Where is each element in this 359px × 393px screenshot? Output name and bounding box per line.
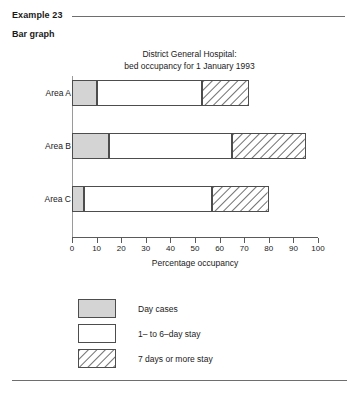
footer-divider	[12, 380, 347, 381]
bar-row-area-a: Area A	[0, 80, 359, 106]
bar-segment-area-a-long-stay	[202, 80, 249, 106]
bar-segment-area-c-long-stay	[212, 186, 269, 212]
bar-segment-area-c-short-stay	[84, 186, 212, 212]
x-tick-0	[72, 238, 73, 243]
x-tick-60	[220, 238, 221, 243]
legend-swatch-long-stay	[78, 349, 116, 368]
x-axis-title: Percentage occupancy	[72, 258, 318, 268]
hatch-fill-icon	[233, 134, 305, 158]
header-divider	[72, 16, 345, 17]
x-tick-30	[146, 238, 147, 243]
x-tick-80	[269, 238, 270, 243]
x-tick-label-30: 30	[134, 244, 158, 253]
bar-label-area-b: Area B	[1, 133, 71, 159]
legend-item-long-stay: 7 days or more stay	[78, 346, 328, 371]
bar-label-area-c: Area C	[1, 186, 71, 212]
x-tick-label-70: 70	[232, 244, 256, 253]
bar-row-area-c: Area C	[0, 186, 359, 212]
x-tick-50	[195, 238, 196, 243]
plot-area: 0 10 20 30 40 50 60 70 80 90 100 Percent…	[0, 76, 359, 261]
bar-row-area-b: Area B	[0, 133, 359, 159]
hatch-fill-icon	[203, 81, 248, 105]
bar-segment-area-a-short-stay	[97, 80, 203, 106]
legend-swatch-day-cases	[78, 299, 116, 318]
example-header: Example 23	[0, 0, 359, 20]
figure-subtitle: Bar graph	[0, 20, 359, 39]
x-tick-label-10: 10	[85, 244, 109, 253]
bar-segment-area-b-day-cases	[72, 133, 109, 159]
legend-label-short-stay: 1– to 6–day stay	[138, 329, 200, 339]
bar-chart: District General Hospital: bed occupancy…	[0, 48, 359, 263]
chart-title: District General Hospital: bed occupancy…	[0, 48, 359, 72]
x-tick-label-60: 60	[208, 244, 232, 253]
x-tick-20	[121, 238, 122, 243]
legend-swatch-short-stay	[78, 324, 116, 343]
chart-title-line-2: bed occupancy for 1 January 1993	[26, 60, 353, 72]
legend-label-long-stay: 7 days or more stay	[138, 354, 213, 364]
chart-title-line-1: District General Hospital:	[26, 48, 353, 60]
bar-segment-area-a-day-cases	[72, 80, 97, 106]
x-tick-label-20: 20	[109, 244, 133, 253]
x-tick-label-100: 100	[306, 244, 330, 253]
x-tick-label-50: 50	[183, 244, 207, 253]
bar-segment-area-b-long-stay	[232, 133, 306, 159]
bar-segment-area-b-short-stay	[109, 133, 232, 159]
x-tick-label-0: 0	[60, 244, 84, 253]
x-tick-label-90: 90	[281, 244, 305, 253]
x-tick-100	[318, 238, 319, 243]
x-tick-10	[97, 238, 98, 243]
bar-segment-area-c-day-cases	[72, 186, 84, 212]
legend-item-short-stay: 1– to 6–day stay	[78, 321, 328, 346]
x-tick-70	[244, 238, 245, 243]
x-tick-label-80: 80	[257, 244, 281, 253]
legend-item-day-cases: Day cases	[78, 296, 328, 321]
legend-label-day-cases: Day cases	[138, 304, 178, 314]
hatch-fill-icon	[79, 350, 115, 367]
x-tick-40	[170, 238, 171, 243]
example-label: Example 23	[12, 10, 63, 20]
x-tick-90	[293, 238, 294, 243]
chart-legend: Day cases 1– to 6–day stay 7 days or mor…	[78, 296, 328, 371]
bar-label-area-a: Area A	[1, 80, 71, 106]
x-tick-label-40: 40	[158, 244, 182, 253]
hatch-fill-icon	[213, 187, 268, 211]
